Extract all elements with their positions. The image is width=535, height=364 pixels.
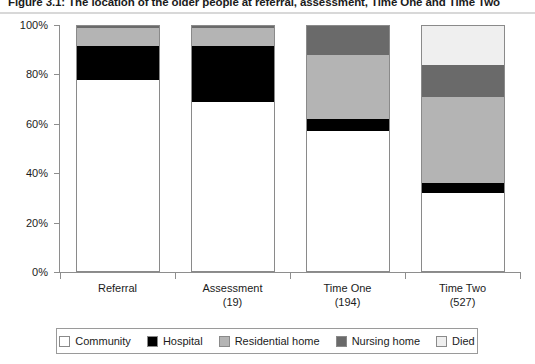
- bar-time-one[interactable]: [306, 25, 390, 272]
- bar-segment-hospital[interactable]: [307, 119, 389, 131]
- y-axis-tick-label: 0%: [4, 267, 48, 277]
- x-axis-label-time-one: Time One(194): [288, 281, 408, 309]
- legend-label: Nursing home: [352, 335, 420, 347]
- legend-item-died[interactable]: Died: [436, 335, 475, 347]
- y-axis-tick: [54, 223, 60, 224]
- legend-label: Residential home: [235, 335, 320, 347]
- bar-segment-residential-home[interactable]: [192, 28, 274, 45]
- legend-swatch-icon: [147, 336, 158, 347]
- legend-label: Hospital: [163, 335, 203, 347]
- y-axis-tick-label: 40%: [4, 168, 48, 178]
- y-axis-tick-label: 80%: [4, 69, 48, 79]
- y-axis-tick-label: 100%: [4, 20, 48, 30]
- x-axis-label-count: (527): [403, 295, 523, 309]
- title-divider: [0, 12, 535, 14]
- legend-label: Died: [452, 335, 475, 347]
- legend-item-nursing-home[interactable]: Nursing home: [336, 335, 420, 347]
- legend-item-residential-home[interactable]: Residential home: [219, 335, 320, 347]
- x-axis-label-count: (194): [288, 295, 408, 309]
- y-axis-tick: [54, 124, 60, 125]
- chart-legend: CommunityHospitalResidential homeNursing…: [56, 328, 478, 354]
- legend-swatch-icon: [219, 336, 230, 347]
- bar-segment-community[interactable]: [422, 193, 504, 271]
- x-axis-label-count: (19): [173, 295, 293, 309]
- bar-segment-residential-home[interactable]: [77, 28, 159, 45]
- x-axis-tick: [60, 272, 61, 279]
- x-axis-label-referral: Referral: [58, 281, 178, 295]
- bar-segment-nursing-home[interactable]: [422, 65, 504, 97]
- bar-segment-died[interactable]: [422, 26, 504, 65]
- bar-segment-residential-home[interactable]: [307, 55, 389, 119]
- bar-segment-residential-home[interactable]: [422, 97, 504, 183]
- bar-time-two[interactable]: [421, 25, 505, 272]
- legend-swatch-icon: [336, 336, 347, 347]
- x-axis-tick: [290, 272, 291, 279]
- y-axis-tick-label: 20%: [4, 218, 48, 228]
- y-axis-tick-label: 60%: [4, 119, 48, 129]
- legend-label: Community: [75, 335, 131, 347]
- figure-title: Figure 3.1: The location of the older pe…: [8, 0, 535, 10]
- bar-segment-community[interactable]: [192, 102, 274, 271]
- x-axis-label-name: Time One: [324, 282, 372, 294]
- x-axis-label-name: Referral: [98, 282, 137, 294]
- y-axis-labels: [0, 0, 52, 300]
- x-axis-label-time-two: Time Two(527): [403, 281, 523, 309]
- bar-segment-hospital[interactable]: [422, 183, 504, 193]
- x-axis-tick: [175, 272, 176, 279]
- bar-referral[interactable]: [76, 25, 160, 272]
- legend-swatch-icon: [436, 336, 447, 347]
- y-axis-tick: [54, 173, 60, 174]
- x-axis-tick: [520, 272, 521, 279]
- legend-item-community[interactable]: Community: [59, 335, 131, 347]
- bar-segment-community[interactable]: [77, 80, 159, 271]
- bar-segment-community[interactable]: [307, 131, 389, 271]
- y-axis-tick: [54, 74, 60, 75]
- y-axis-tick: [54, 25, 60, 26]
- bar-segment-hospital[interactable]: [77, 46, 159, 80]
- x-axis-label-name: Assessment: [203, 282, 263, 294]
- plot-area: [60, 25, 520, 272]
- bar-segment-hospital[interactable]: [192, 46, 274, 102]
- x-axis-label-assessment: Assessment(19): [173, 281, 293, 309]
- x-axis-label-name: Time Two: [439, 282, 486, 294]
- bar-assessment[interactable]: [191, 25, 275, 272]
- x-axis-tick: [405, 272, 406, 279]
- legend-item-hospital[interactable]: Hospital: [147, 335, 203, 347]
- bar-segment-nursing-home[interactable]: [307, 26, 389, 55]
- legend-swatch-icon: [59, 336, 70, 347]
